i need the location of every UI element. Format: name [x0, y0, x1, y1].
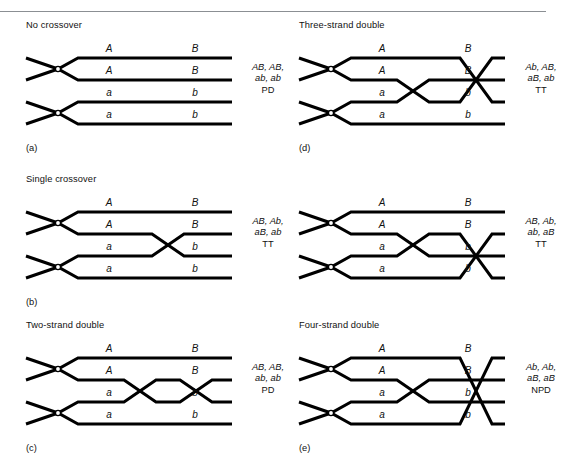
panel-c: Two-strand double(c)ABABababAB, AB,ab, a… [0, 318, 273, 463]
panel-a: No crossover(a)ABABababAB, AB,ab, abPD [0, 18, 273, 168]
allele-right: B [453, 365, 483, 376]
allele-left: A [367, 343, 397, 354]
outcome-line-2: ab, aB [528, 227, 555, 237]
allele-left: a [367, 87, 397, 98]
allele-left: a [94, 87, 124, 98]
allele-left: A [94, 219, 124, 230]
allele-right: b [453, 409, 483, 420]
allele-right: b [453, 241, 483, 252]
allele-right: b [180, 387, 210, 398]
allele-left: a [367, 109, 397, 120]
allele-right: B [180, 365, 210, 376]
tetrad-outcome: Ab, Ab,aB, aBNPD [511, 362, 561, 396]
outcome-type: NPD [511, 385, 561, 396]
outcome-line-2: aB, aB [527, 373, 555, 383]
chromatid-diagram [0, 318, 273, 463]
allele-right: b [453, 87, 483, 98]
allele-left: A [367, 65, 397, 76]
allele-left: A [367, 219, 397, 230]
allele-left: a [94, 263, 124, 274]
allele-left: A [94, 197, 124, 208]
allele-left: a [367, 241, 397, 252]
allele-left: A [94, 343, 124, 354]
allele-right: b [180, 263, 210, 274]
panel-d: Three-strand double(d)ABABababAb, AB,aB,… [273, 18, 546, 168]
allele-left: A [94, 43, 124, 54]
outcome-line-2: aB, ab [528, 73, 555, 83]
allele-right: B [180, 65, 210, 76]
allele-left: A [94, 65, 124, 76]
allele-right: B [453, 197, 483, 208]
allele-left: A [367, 197, 397, 208]
allele-left: A [367, 365, 397, 376]
allele-right: B [180, 219, 210, 230]
allele-right: b [180, 109, 210, 120]
allele-right: B [180, 343, 210, 354]
chromatid-diagram [273, 318, 546, 463]
outcome-type: TT [511, 85, 561, 96]
chromatid-diagram [0, 172, 273, 322]
tetrad-outcome: Ab, AB,aB, abTT [511, 62, 561, 96]
allele-left: a [367, 409, 397, 420]
outcome-line-1: Ab, Ab, [526, 362, 556, 372]
allele-right: B [180, 43, 210, 54]
chromatid-diagram [0, 18, 273, 168]
allele-left: a [94, 109, 124, 120]
allele-right: b [453, 387, 483, 398]
outcome-type: TT [511, 239, 561, 250]
chromatid-diagram [273, 18, 546, 168]
allele-left: A [367, 43, 397, 54]
allele-left: a [94, 241, 124, 252]
allele-right: B [453, 343, 483, 354]
allele-right: b [180, 409, 210, 420]
allele-left: a [367, 387, 397, 398]
allele-right: B [180, 197, 210, 208]
panel-b: Single crossover(b)ABABababAB, Ab,aB, ab… [0, 172, 273, 322]
allele-right: B [453, 65, 483, 76]
allele-right: b [453, 263, 483, 274]
tetrad-outcome: AB, Ab,ab, aBTT [511, 216, 561, 250]
allele-right: b [453, 109, 483, 120]
allele-left: a [94, 409, 124, 420]
panel-d2: ABABababAB, Ab,ab, aBTT [273, 172, 546, 322]
header-rule [0, 11, 546, 12]
allele-left: A [94, 365, 124, 376]
allele-left: a [367, 263, 397, 274]
chromatid-diagram [273, 172, 546, 322]
outcome-line-1: Ab, AB, [525, 62, 556, 72]
allele-left: a [94, 387, 124, 398]
allele-right: b [180, 87, 210, 98]
allele-right: b [180, 241, 210, 252]
allele-right: B [453, 43, 483, 54]
allele-right: B [453, 219, 483, 230]
outcome-line-1: AB, Ab, [525, 216, 556, 226]
panel-e: Four-strand double(e)ABABababAb, Ab,aB, … [273, 318, 546, 463]
